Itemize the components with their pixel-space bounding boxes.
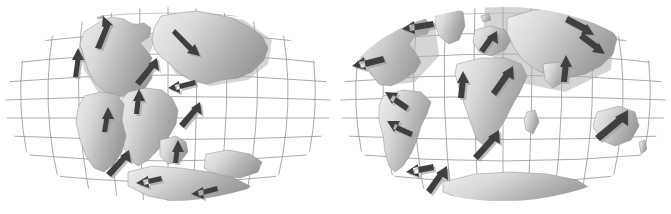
arrow-africa-northeast (179, 102, 204, 130)
landmass-madagascar (524, 110, 539, 134)
landmass-africa (455, 58, 527, 146)
globe-panel-present-day (335, 0, 671, 214)
globe-panel-pangaea (0, 0, 336, 214)
continental-drift-figure: Continental drift: Pangaea breakup and p… (0, 0, 671, 214)
pangaea-globe-svg (0, 0, 336, 214)
landmass-arctic-islet (96, 13, 104, 19)
arrow-eurasia-southwest (168, 80, 198, 95)
present-day-globe-svg (335, 0, 671, 214)
landmass-antarctica (443, 172, 593, 206)
landmass-greenland (435, 8, 465, 44)
